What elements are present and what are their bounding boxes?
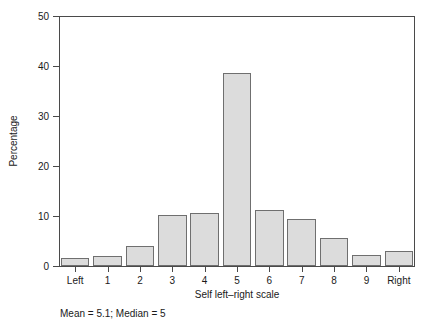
x-axis-tick-label: 1 bbox=[105, 275, 111, 286]
x-axis-tick bbox=[302, 266, 303, 272]
bar bbox=[190, 213, 218, 267]
x-axis-tick bbox=[75, 266, 76, 272]
bar bbox=[61, 258, 89, 266]
y-axis-title: Percentage bbox=[8, 115, 19, 166]
x-axis-tick-label: 9 bbox=[364, 275, 370, 286]
x-axis-tick bbox=[334, 266, 335, 272]
y-axis-tick bbox=[53, 66, 59, 67]
x-axis-tick-label: 3 bbox=[169, 275, 175, 286]
y-axis-tick bbox=[53, 166, 59, 167]
x-axis-tick-label: 4 bbox=[202, 275, 208, 286]
y-axis-tick-label: 10 bbox=[0, 211, 49, 222]
y-axis bbox=[59, 16, 60, 266]
bar bbox=[287, 219, 315, 266]
x-axis-tick-label: 2 bbox=[137, 275, 143, 286]
x-axis-tick-label: 6 bbox=[267, 275, 273, 286]
x-axis-tick bbox=[108, 266, 109, 272]
bar bbox=[385, 251, 413, 267]
x-axis-tick-label: 7 bbox=[299, 275, 305, 286]
y-axis-tick-label: 0 bbox=[0, 261, 49, 272]
x-axis-tick-label: Right bbox=[387, 275, 410, 286]
bar bbox=[158, 215, 186, 266]
bar bbox=[93, 256, 121, 267]
bar bbox=[255, 210, 283, 266]
summary-statistics-note: Mean = 5.1; Median = 5 bbox=[60, 308, 166, 319]
x-axis-tick bbox=[269, 266, 270, 272]
x-axis-tick bbox=[237, 266, 238, 272]
x-axis-tick bbox=[140, 266, 141, 272]
x-axis-tick bbox=[205, 266, 206, 272]
x-axis-title: Self left–right scale bbox=[195, 289, 280, 300]
bar bbox=[223, 73, 251, 266]
x-axis-tick bbox=[172, 266, 173, 272]
x-axis-tick bbox=[366, 266, 367, 272]
y-axis-tick bbox=[53, 16, 59, 17]
bar bbox=[320, 238, 348, 266]
x-axis-tick bbox=[399, 266, 400, 272]
histogram-figure: 01020304050 Percentage Left123456789Righ… bbox=[0, 0, 436, 331]
y-axis-tick bbox=[53, 116, 59, 117]
bar-series bbox=[59, 16, 415, 266]
x-axis-tick-label: 5 bbox=[234, 275, 240, 286]
y-axis-tick bbox=[53, 216, 59, 217]
x-axis-tick-label: 8 bbox=[331, 275, 337, 286]
y-axis-tick-label: 50 bbox=[0, 11, 49, 22]
bar bbox=[126, 246, 154, 267]
bar bbox=[352, 255, 380, 267]
x-axis-tick-label: Left bbox=[67, 275, 84, 286]
y-axis-tick-label: 40 bbox=[0, 61, 49, 72]
